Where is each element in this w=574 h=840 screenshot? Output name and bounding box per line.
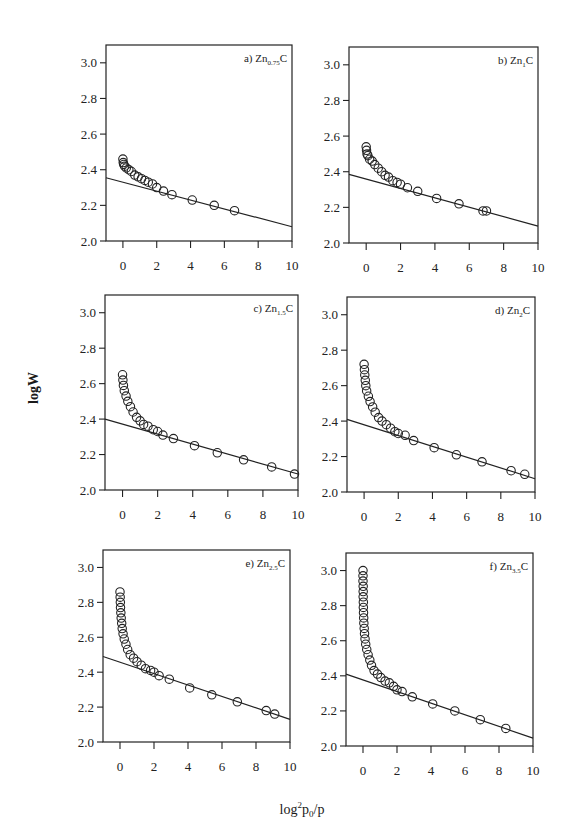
- data-point: [123, 645, 131, 653]
- data-point: [374, 164, 382, 172]
- y-tick-label: 2.8: [324, 93, 340, 108]
- fit-line: [106, 178, 292, 227]
- y-tick-label: 2.0: [324, 236, 340, 251]
- x-axis-label-p: p: [302, 802, 309, 817]
- x-axis-label-tail: /p: [314, 802, 325, 817]
- data-point: [136, 417, 144, 425]
- x-tick-label: 8: [255, 258, 262, 273]
- chart-panels: 2.02.22.42.62.83.00246810a) Zn0.75C2.02.…: [0, 0, 574, 840]
- y-tick-label: 3.0: [81, 55, 97, 70]
- x-tick-label: 10: [286, 258, 299, 273]
- y-tick-label: 2.4: [81, 162, 98, 177]
- fit-line: [105, 419, 298, 474]
- y-tick-label: 2.2: [322, 449, 338, 464]
- y-tick-label: 2.4: [321, 668, 338, 683]
- panel-label: f) Zn3.5C: [490, 560, 528, 575]
- data-point: [213, 449, 221, 457]
- y-tick-label: 2.8: [81, 91, 97, 106]
- data-point: [124, 397, 132, 405]
- data-point: [398, 687, 406, 695]
- y-tick-label: 3.0: [324, 57, 340, 72]
- y-tick-label: 2.6: [80, 376, 97, 391]
- y-tick-label: 2.6: [324, 129, 341, 144]
- panel-label: a) Zn0.75C: [244, 52, 287, 67]
- y-tick-label: 2.8: [321, 598, 337, 613]
- fit-line: [349, 174, 538, 226]
- y-tick-label: 2.4: [78, 665, 95, 680]
- data-point: [129, 654, 137, 662]
- data-point: [120, 387, 128, 395]
- y-tick-label: 2.2: [80, 447, 96, 462]
- data-point: [364, 392, 372, 400]
- data-point: [362, 387, 370, 395]
- x-tick-label: 8: [496, 763, 503, 778]
- y-tick-label: 3.0: [78, 560, 94, 575]
- y-tick-label: 2.8: [80, 341, 96, 356]
- x-tick-label: 8: [253, 759, 260, 774]
- x-tick-label: 2: [153, 258, 160, 273]
- y-tick-label: 2.0: [81, 234, 97, 249]
- plot-frame: [106, 45, 292, 241]
- figure: logW 2.02.22.42.62.83.00246810a) Zn0.75C…: [0, 0, 574, 840]
- data-point: [393, 686, 401, 694]
- data-point: [373, 670, 381, 678]
- x-tick-label: 6: [221, 258, 228, 273]
- x-tick-label: 0: [360, 763, 367, 778]
- y-tick-label: 2.4: [324, 164, 341, 179]
- fit-line: [346, 674, 533, 738]
- x-tick-label: 6: [225, 507, 232, 522]
- y-tick-label: 2.6: [78, 630, 95, 645]
- y-tick-label: 2.6: [81, 127, 98, 142]
- panel-b: 2.02.22.42.62.83.00246810b) Zn1C: [324, 47, 545, 275]
- x-tick-label: 0: [120, 258, 127, 273]
- data-point: [208, 691, 216, 699]
- x-tick-label: 4: [185, 759, 192, 774]
- data-point: [370, 666, 378, 674]
- panel-label: c) Zn1.5C: [253, 302, 293, 317]
- y-tick-label: 2.8: [78, 595, 94, 610]
- x-axis-label: log2p0/p: [0, 800, 574, 819]
- x-tick-label: 6: [463, 509, 470, 524]
- x-tick-label: 8: [498, 509, 505, 524]
- x-tick-label: 4: [429, 509, 436, 524]
- data-point: [159, 187, 167, 195]
- y-tick-label: 2.0: [322, 485, 338, 500]
- data-point: [364, 651, 372, 659]
- x-tick-label: 2: [397, 260, 404, 275]
- data-point: [363, 645, 371, 653]
- x-tick-label: 6: [219, 759, 226, 774]
- plot-frame: [103, 550, 290, 742]
- y-tick-label: 3.0: [321, 563, 337, 578]
- data-point: [366, 397, 374, 405]
- panel-label: e) Zn2.5C: [245, 557, 285, 572]
- y-tick-label: 2.2: [81, 198, 97, 213]
- x-tick-label: 8: [500, 260, 507, 275]
- y-tick-label: 2.0: [321, 739, 337, 754]
- panel-label: b) Zn1C: [498, 54, 533, 69]
- panel-c: 2.02.22.42.62.83.00246810c) Zn1.5C: [80, 295, 305, 522]
- x-tick-label: 8: [260, 507, 267, 522]
- x-tick-label: 2: [395, 509, 402, 524]
- x-tick-label: 4: [432, 260, 439, 275]
- y-tick-label: 2.6: [322, 378, 339, 393]
- y-tick-label: 2.2: [321, 703, 337, 718]
- x-tick-label: 4: [189, 507, 196, 522]
- panel-e: 2.02.22.42.62.83.00246810e) Zn2.5C: [78, 550, 297, 774]
- plot-frame: [347, 297, 535, 492]
- data-point: [186, 684, 194, 692]
- y-tick-label: 2.0: [78, 735, 94, 750]
- plot-frame: [105, 295, 298, 490]
- y-tick-label: 2.2: [78, 700, 94, 715]
- x-tick-label: 10: [532, 260, 545, 275]
- x-tick-label: 10: [284, 759, 297, 774]
- x-tick-label: 10: [527, 763, 540, 778]
- data-point: [366, 656, 374, 664]
- x-tick-label: 0: [119, 507, 126, 522]
- x-axis-label-log: log: [280, 802, 298, 817]
- x-tick-label: 0: [117, 759, 124, 774]
- x-tick-label: 6: [466, 260, 473, 275]
- y-tick-label: 2.2: [324, 200, 340, 215]
- data-point: [367, 661, 375, 669]
- plot-frame: [349, 47, 538, 243]
- data-point: [122, 640, 130, 648]
